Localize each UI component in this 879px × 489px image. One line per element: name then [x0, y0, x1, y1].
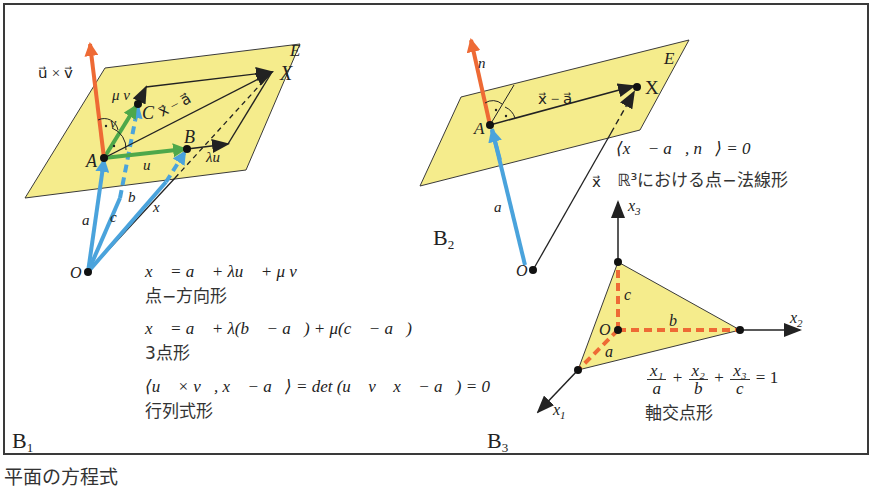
- intercept-a-point: [574, 366, 582, 374]
- intercept-label-c: c: [624, 287, 631, 303]
- figure-caption: 平面の方程式: [4, 462, 118, 489]
- axis-label-x1: x1: [553, 402, 566, 421]
- name-point-direction: 点−方向形: [145, 288, 227, 305]
- label-lambda-u: λu⃗: [206, 150, 232, 165]
- panel-label-b1: B1: [12, 428, 33, 456]
- label-plane-e-b1: E: [290, 42, 300, 59]
- label-point-o-b1: O: [70, 265, 82, 281]
- name-three-point: 3点形: [145, 345, 190, 362]
- label-x-b2: x⃗: [592, 175, 601, 190]
- label-a-b1: a⃗: [82, 213, 101, 228]
- intercept-c-point: [614, 258, 622, 266]
- point-x-b2: [633, 83, 641, 91]
- equation-point-direction: x⃗ = a⃗ + λu⃗ + μ v⃗: [145, 263, 310, 280]
- label-x-b1: x⃗: [153, 200, 171, 215]
- equation-point-normal: ⟨x⃗ − a⃗, n⃗⟩ = 0: [616, 140, 750, 157]
- label-point-o-b3: O: [599, 322, 611, 338]
- label-u: u⃗: [143, 158, 162, 173]
- label-x-minus-a-b2: x⃗ − a⃗: [538, 92, 572, 107]
- name-intercept-form: 軸交点形: [645, 405, 713, 422]
- equation-three-point: x⃗ = a⃗ + λ(b⃗ − a⃗) + μ(c⃗ − a⃗): [145, 320, 412, 337]
- label-b: b⃗: [128, 190, 147, 205]
- equation-intercept-form: x₁a + x₂b + x₃c = 1: [645, 362, 778, 397]
- name-point-normal: ℝ³における点−法線形: [617, 172, 788, 189]
- name-determinant: 行列式形: [145, 403, 213, 420]
- plane-e-b2: [420, 40, 689, 186]
- axis-label-x3: x3: [628, 198, 641, 217]
- intercept-b-point: [736, 326, 744, 334]
- label-point-o-b2: O: [516, 263, 528, 279]
- label-point-a-b2: A: [474, 120, 484, 137]
- equation-determinant: ⟨u⃗ × v⃗, x⃗ − a⃗⟩ = det (u⃗ v⃗ x⃗ − a⃗)…: [145, 378, 490, 395]
- label-point-a-b1: A: [86, 152, 97, 170]
- label-point-c: C: [142, 104, 154, 122]
- label-plane-e-b2: E: [664, 50, 674, 67]
- point-o-b3: [614, 326, 622, 334]
- label-a-b2: a⃗: [494, 200, 513, 215]
- label-point-b: B: [184, 128, 195, 146]
- panel-label-b3: B3: [487, 428, 508, 456]
- axis-label-x2: x2: [790, 310, 803, 329]
- intercept-label-a: a: [605, 344, 613, 360]
- label-normal-n: n⃗: [478, 56, 497, 71]
- label-point-x-b2: X: [645, 78, 659, 97]
- label-c: c⃗: [110, 210, 128, 225]
- point-a-b1: [100, 154, 108, 162]
- point-o-b2: [529, 266, 537, 274]
- panel-label-b2: B2: [433, 225, 454, 253]
- intercept-label-b: b: [669, 313, 677, 329]
- point-a-b2: [486, 121, 494, 129]
- label-mu-v: μ v⃗: [112, 88, 142, 103]
- point-o-b1: [84, 268, 92, 276]
- label-normal-uxv: u⃗ × v⃗: [38, 66, 73, 81]
- label-v: v⃗: [110, 117, 127, 131]
- label-point-x-b1: X: [280, 63, 292, 83]
- intercept-triangle: [578, 262, 740, 370]
